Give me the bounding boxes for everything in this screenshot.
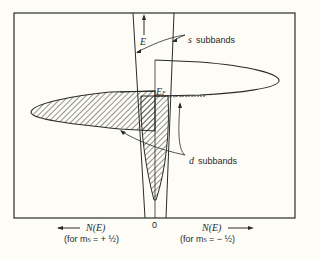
energy-axis-label: E	[140, 36, 146, 47]
right-n-label: N(E)	[202, 222, 221, 233]
origin-label: 0	[152, 220, 157, 230]
d-subband-right-lobe	[155, 60, 279, 96]
d-pointer-right	[179, 104, 185, 155]
fermi-level-label: EF	[156, 86, 166, 97]
occupied-s-region	[141, 96, 169, 200]
left-n-label: N(E)	[86, 222, 105, 233]
s-subbands-label: s subbands	[188, 29, 235, 47]
d-subbands-label: d subbands	[189, 150, 237, 168]
d-subband-left-lobe	[31, 91, 155, 131]
right-spin-caption: (for mS = − ½)	[180, 234, 235, 244]
left-spin-caption: (for mS = + ½)	[64, 234, 119, 244]
energy-arrow-head	[142, 14, 146, 20]
